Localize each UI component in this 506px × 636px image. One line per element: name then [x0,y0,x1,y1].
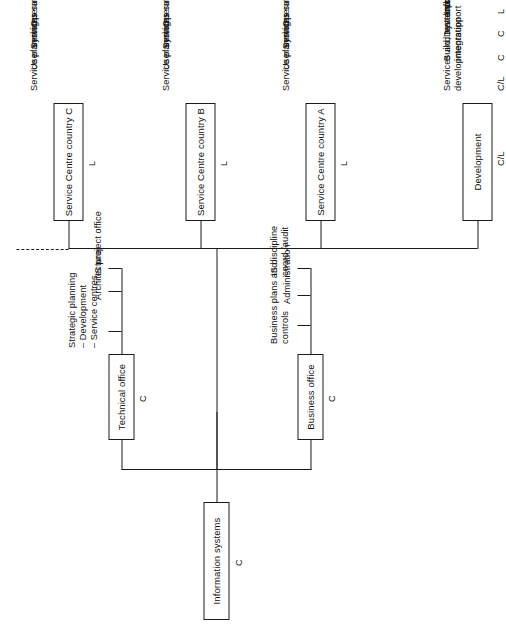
node-development[interactable]: Development [462,103,492,221]
node-code-service-centre-a: L [338,161,349,166]
tick-business-2 [297,295,310,296]
tick-business-3 [297,268,310,269]
node-code-technical-office: C [137,395,148,402]
sc-c-item-3: Operations [28,0,39,27]
business-office-item-2: IS discipline coord /audit [268,146,290,276]
tick-technical-2 [108,291,121,292]
connector-business-office [310,440,311,470]
development-row-code-3: L [495,9,506,14]
node-business-office[interactable]: Business office [297,354,323,440]
connector-sc-a [320,221,321,249]
node-service-centre-c[interactable]: Service Centre country C [53,103,83,221]
continuation-dashed-line [16,249,68,250]
connector-technical-office [121,440,122,470]
technical-office-item-2: IS project office [92,156,103,276]
node-information-systems[interactable]: Information systems [203,502,229,620]
connector-development [477,221,478,249]
development-row-code-2: C [495,30,506,37]
node-service-centre-a[interactable]: Service Centre country A [305,103,335,221]
sc-b-item-3: Operations [160,0,171,27]
node-service-centre-b[interactable]: Service Centre country B [185,103,215,221]
node-code-service-centre-c: L [86,161,97,166]
rail-business-office [310,268,311,354]
node-code-service-centre-b: L [218,161,229,166]
development-row-text-3: Information centre [441,0,452,14]
connector-servicecentre-spine [68,248,477,249]
node-code-development: C/L [495,151,506,166]
connector-sc-c [68,221,69,249]
development-row-code-1: C [495,54,506,61]
tick-technical-3 [108,268,121,269]
node-technical-office[interactable]: Technical office [108,354,134,440]
development-row-code-0: C/L [495,76,506,91]
connector-main-trunk [216,248,217,470]
node-code-information-systems: C [233,559,244,566]
node-code-business-office: C [326,395,337,402]
rail-technical-office [121,268,122,354]
connector-sc-b [200,221,201,249]
tick-business-1 [297,325,310,326]
tick-technical-1 [108,331,121,332]
sc-a-item-3: Operations [280,0,291,27]
